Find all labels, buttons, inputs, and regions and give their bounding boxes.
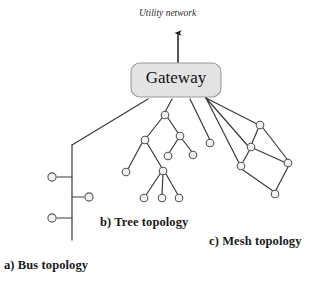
mesh-edge-d-e bbox=[276, 167, 288, 190]
mesh-node[interactable] bbox=[256, 121, 264, 129]
tree-node[interactable] bbox=[164, 152, 172, 160]
mesh-edge-b-d bbox=[255, 149, 284, 162]
topology-figure: Utility network Gateway a) Bus topology … bbox=[0, 0, 331, 285]
tree-edge-e-j bbox=[166, 174, 178, 195]
tree-node[interactable] bbox=[140, 194, 148, 202]
tree-edge-e-i bbox=[162, 174, 163, 195]
mesh-node[interactable] bbox=[271, 190, 279, 198]
tree-node[interactable] bbox=[159, 167, 167, 175]
bus-node[interactable] bbox=[85, 193, 93, 201]
tree-edge-gateway-c bbox=[190, 99, 210, 140]
utility-network-label: Utility network bbox=[139, 8, 196, 18]
tree-nodes bbox=[122, 111, 214, 202]
bus-node[interactable] bbox=[48, 173, 56, 181]
bus-node[interactable] bbox=[48, 214, 56, 222]
mesh-node[interactable] bbox=[237, 162, 245, 170]
bus-topology-caption: a) Bus topology bbox=[4, 258, 88, 273]
mesh-node[interactable] bbox=[284, 159, 292, 167]
tree-node[interactable] bbox=[189, 151, 197, 159]
tree-node[interactable] bbox=[206, 139, 214, 147]
tree-node[interactable] bbox=[141, 136, 149, 144]
tree-edge-gateway-root bbox=[165, 99, 172, 112]
mesh-edge-c-e bbox=[243, 170, 273, 191]
bus-nodes bbox=[48, 173, 93, 222]
tree-edge-root-b bbox=[168, 118, 178, 133]
tree-node[interactable] bbox=[175, 194, 183, 202]
gateway-label: Gateway bbox=[137, 68, 215, 88]
mesh-topology-caption: c) Mesh topology bbox=[209, 234, 302, 249]
mesh-nodes bbox=[237, 121, 292, 198]
tree-node[interactable] bbox=[158, 194, 166, 202]
tree-node[interactable] bbox=[161, 111, 169, 119]
bus-gateway-link bbox=[72, 99, 148, 145]
tree-edge-a-e bbox=[147, 143, 162, 168]
tree-edge-e-h bbox=[146, 174, 160, 195]
mesh-edge-b-c bbox=[243, 151, 249, 162]
tree-edge-b-g bbox=[182, 139, 192, 152]
tree-edge-root-a bbox=[147, 118, 162, 137]
mesh-edge-gateway-a bbox=[206, 98, 257, 124]
tree-topology-caption: b) Tree topology bbox=[100, 215, 188, 230]
mesh-node[interactable] bbox=[247, 143, 255, 151]
tree-edge-b-f bbox=[169, 139, 178, 153]
mesh-edge-a-b bbox=[252, 129, 258, 143]
mesh-topology-group bbox=[206, 98, 288, 191]
tree-node[interactable] bbox=[176, 132, 184, 140]
tree-node[interactable] bbox=[122, 168, 130, 176]
tree-edge-a-d bbox=[128, 143, 142, 169]
